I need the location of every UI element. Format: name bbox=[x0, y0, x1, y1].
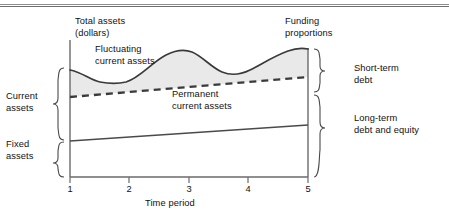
long-term-debt-equity-label: Long-term debt and equity bbox=[354, 113, 419, 136]
x-axis-ticks bbox=[70, 177, 308, 183]
funding-proportions-label: Funding proportions bbox=[285, 16, 333, 39]
long-term-debt-equity-bracket bbox=[314, 95, 325, 177]
short-term-debt-bracket bbox=[314, 49, 325, 92]
x-tick-label-1: 1 bbox=[61, 184, 79, 195]
fixed-assets-boundary-line bbox=[70, 125, 308, 141]
y-axis-title-label: Total assets (dollars) bbox=[75, 16, 125, 39]
fixed-assets-label: Fixed assets bbox=[6, 139, 33, 162]
x-tick-label-3: 3 bbox=[180, 184, 198, 195]
permanent-current-assets-label: Permanent current assets bbox=[172, 89, 232, 112]
figure-container: Total assets (dollars) Funding proportio… bbox=[0, 0, 449, 215]
short-term-debt-label: Short-term debt bbox=[354, 63, 399, 86]
fluctuating-current-assets-label: Fluctuating current assets bbox=[95, 44, 155, 67]
fixed-assets-bracket bbox=[53, 142, 64, 177]
x-tick-label-5: 5 bbox=[299, 184, 317, 195]
x-axis-title-label: Time period bbox=[145, 198, 195, 210]
x-tick-label-2: 2 bbox=[120, 184, 138, 195]
current-assets-bracket bbox=[53, 68, 64, 140]
current-assets-label: Current assets bbox=[6, 91, 38, 114]
x-tick-label-4: 4 bbox=[239, 184, 257, 195]
